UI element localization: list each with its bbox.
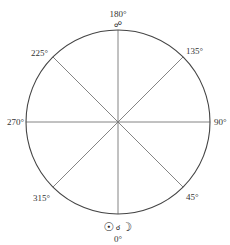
label-0: 0° — [114, 234, 123, 244]
conjunction-glyphs: ☉ ☌ ☽ — [104, 220, 133, 234]
label-180: 180° — [109, 9, 127, 19]
label-270: 270° — [7, 117, 25, 127]
sun-symbol-icon: ☉ — [104, 220, 115, 234]
label-135: 135° — [186, 46, 204, 56]
label-90: 90° — [214, 117, 227, 127]
opposition-symbol-icon: ☍ — [114, 20, 122, 29]
label-45: 45° — [186, 192, 199, 202]
spokes — [26, 30, 210, 214]
conjunction-symbol-icon: ☌ — [116, 224, 121, 232]
label-315: 315° — [33, 193, 51, 203]
moon-symbol-icon: ☽ — [122, 220, 133, 234]
aspect-wheel-diagram: 180° ☍ 225° 135° 270° 90° 315° 45° ☉ ☌ ☽… — [0, 0, 230, 245]
label-225: 225° — [31, 48, 49, 58]
